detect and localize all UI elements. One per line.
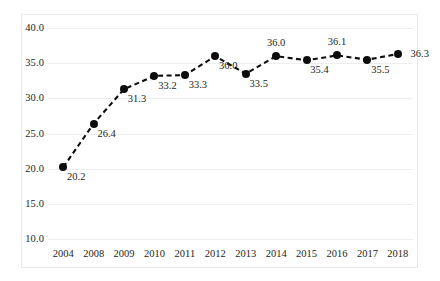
line-chart: 40.035.030.025.020.015.010.0200420082009… [0,0,440,281]
series-line [0,0,440,281]
